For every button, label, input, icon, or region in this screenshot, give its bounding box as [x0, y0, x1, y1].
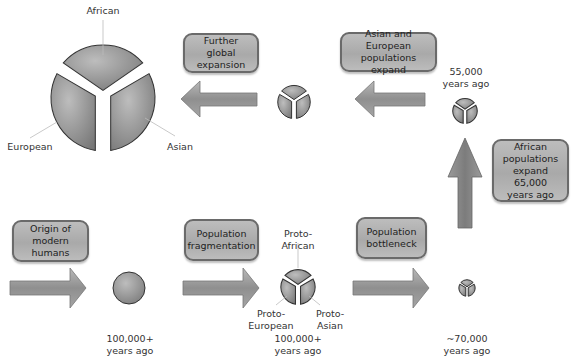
arrow-right-3: [353, 268, 429, 308]
label-asian: Asian: [160, 141, 200, 153]
fragmented-population-icon: [281, 270, 315, 305]
label-african: African: [78, 5, 128, 17]
bottleneck-box: Population bottleneck: [356, 217, 427, 259]
time-label-55000: 55,000 years ago: [440, 66, 492, 90]
label-proto-african: Proto- African: [271, 228, 325, 252]
global-expansion-box: Further global expansion: [183, 33, 259, 73]
label-proto-asian: Proto- Asian: [305, 308, 355, 332]
bottleneck-population-icon: [459, 280, 475, 296]
asian-european-expansion-box: Asian and European populations expand: [340, 32, 437, 72]
time-label-fragmentation: 100,000+ years ago: [272, 333, 324, 357]
fragmentation-box: Population fragmentation: [184, 219, 259, 261]
arrow-up: [448, 138, 482, 228]
arrow-right-2: [183, 268, 259, 308]
origin-box: Origin of modern humans: [12, 220, 89, 262]
arrow-left-1: [355, 81, 425, 117]
african-expansion-box: African populations expand 65,000 years …: [492, 139, 569, 202]
arrow-left-2: [181, 81, 257, 117]
time-label-origin: 100,000+ years ago: [104, 333, 156, 357]
global-population-icon: [51, 45, 155, 150]
label-european: European: [4, 141, 56, 153]
asian-european-population-icon: [278, 85, 311, 118]
single-population-circle: [113, 272, 145, 304]
time-label-bottleneck: ~70,000 years ago: [440, 333, 494, 357]
african-expansion-population-icon: [453, 99, 477, 124]
arrow-right-1: [10, 268, 86, 308]
label-proto-european: Proto- European: [244, 308, 298, 332]
